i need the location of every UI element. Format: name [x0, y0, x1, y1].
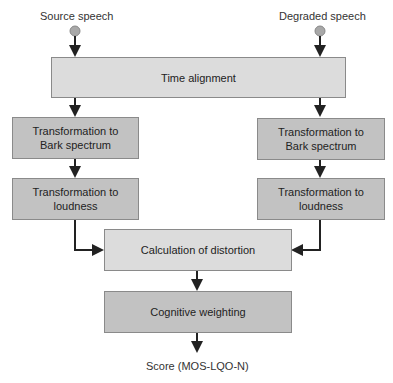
left-bark-block: Transformation to Bark spectrum [12, 117, 139, 159]
degraded-speech-label: Degraded speech [279, 10, 366, 22]
score-label: Score (MOS-LQO-N) [146, 360, 249, 372]
right-bark-label: Transformation to Bark spectrum [278, 125, 364, 153]
right-loudness-block: Transformation to loudness [257, 178, 385, 220]
distortion-label: Calculation of distortion [141, 243, 255, 257]
distortion-block: Calculation of distortion [104, 229, 292, 271]
right-bark-block: Transformation to Bark spectrum [257, 118, 385, 160]
cognitive-label: Cognitive weighting [150, 305, 245, 319]
cognitive-block: Cognitive weighting [104, 291, 292, 333]
source-node-icon [70, 26, 80, 36]
right-loudness-label: Transformation to loudness [278, 185, 364, 213]
time-alignment-block: Time alignment [51, 57, 346, 98]
degraded-node-icon [315, 26, 325, 36]
left-loudness-block: Transformation to loudness [12, 178, 139, 220]
left-bark-label: Transformation to Bark spectrum [33, 124, 119, 152]
source-speech-label: Source speech [40, 10, 113, 22]
time-alignment-label: Time alignment [161, 71, 236, 85]
left-loudness-label: Transformation to loudness [33, 185, 119, 213]
